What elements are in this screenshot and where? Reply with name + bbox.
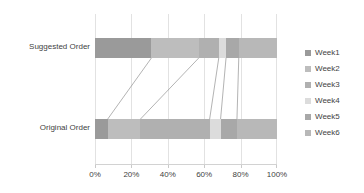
legend-item-week2[interactable]: Week2 xyxy=(305,61,363,77)
legend-swatch-icon-week2 xyxy=(305,66,311,72)
legend-label: Week6 xyxy=(315,128,340,138)
legend-label: Week2 xyxy=(315,64,340,74)
legend-item-week1[interactable]: Week1 xyxy=(305,45,363,61)
gridline-60% xyxy=(204,14,205,165)
legend-label: Week4 xyxy=(315,96,340,106)
bar-segment-week1[interactable] xyxy=(95,119,108,139)
tickmark-80% xyxy=(241,165,242,168)
x-tick-label-40%: 40% xyxy=(153,170,183,179)
legend-swatch-icon-week6 xyxy=(305,130,311,136)
legend-label: Week5 xyxy=(315,112,340,122)
bar-original-order[interactable] xyxy=(95,119,277,139)
x-tick-label-100%: 100% xyxy=(262,170,292,179)
bar-segment-week6[interactable] xyxy=(237,119,277,139)
bar-segment-week4[interactable] xyxy=(210,119,221,139)
tickmark-40% xyxy=(168,165,169,168)
tickmark-60% xyxy=(204,165,205,168)
x-tick-label-60%: 60% xyxy=(189,170,219,179)
category-label-suggested-order: Suggested Order xyxy=(6,42,90,51)
chart-legend: Week1Week2Week3Week4Week5Week6 xyxy=(305,45,363,141)
tickmark-100% xyxy=(276,165,277,168)
legend-item-week3[interactable]: Week3 xyxy=(305,77,363,93)
x-tick-label-80%: 80% xyxy=(226,170,256,179)
legend-item-week5[interactable]: Week5 xyxy=(305,109,363,125)
category-label-original-order: Original Order xyxy=(6,123,90,132)
legend-swatch-icon-week1 xyxy=(305,50,311,56)
plot-area xyxy=(95,14,277,165)
bar-segment-week2[interactable] xyxy=(151,38,198,58)
bar-segment-week3[interactable] xyxy=(140,119,209,139)
bar-segment-week3[interactable] xyxy=(199,38,219,58)
stacked-bar-chart: Suggested Order Original Order 0%20%40%6… xyxy=(0,0,364,193)
legend-swatch-icon-week5 xyxy=(305,114,311,120)
legend-item-week4[interactable]: Week4 xyxy=(305,93,363,109)
gridline-40% xyxy=(168,14,169,165)
tickmark-0% xyxy=(95,165,96,168)
x-tick-label-0%: 0% xyxy=(80,170,110,179)
legend-item-week6[interactable]: Week6 xyxy=(305,125,363,141)
bar-segment-week2[interactable] xyxy=(108,119,141,139)
legend-label: Week1 xyxy=(315,48,340,58)
bar-segment-week6[interactable] xyxy=(239,38,277,58)
gridline-80% xyxy=(241,14,242,165)
gridline-20% xyxy=(131,14,132,165)
legend-swatch-icon-week3 xyxy=(305,82,311,88)
legend-label: Week3 xyxy=(315,80,340,90)
bar-suggested-order[interactable] xyxy=(95,38,277,58)
bar-segment-week5[interactable] xyxy=(221,119,237,139)
bar-segment-week1[interactable] xyxy=(95,38,151,58)
gridline-100% xyxy=(276,14,277,165)
tickmark-20% xyxy=(131,165,132,168)
x-axis-line xyxy=(95,164,277,165)
bar-segment-week5[interactable] xyxy=(226,38,239,58)
gridline-0% xyxy=(95,14,96,165)
x-tick-label-20%: 20% xyxy=(116,170,146,179)
bar-segment-week4[interactable] xyxy=(219,38,226,58)
legend-swatch-icon-week4 xyxy=(305,98,311,104)
